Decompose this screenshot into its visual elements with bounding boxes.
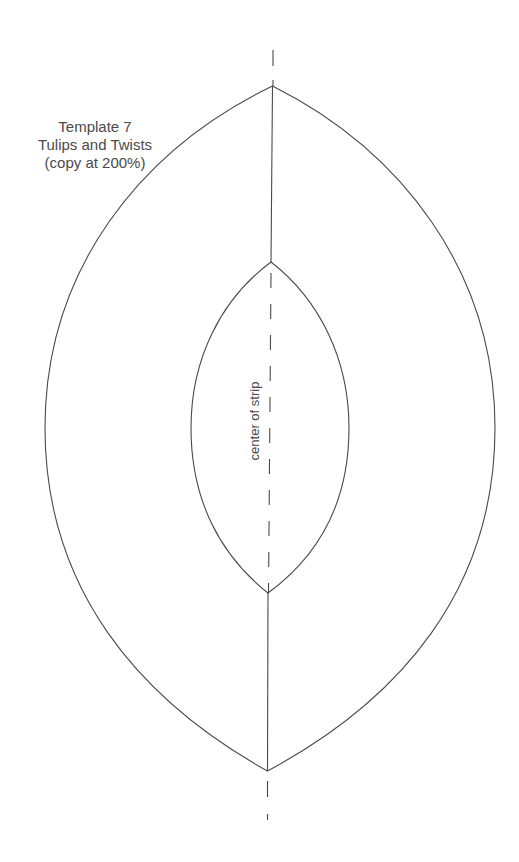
title-line-1: Template 7	[20, 118, 170, 136]
upper-center-line	[271, 86, 273, 262]
title-line-2: Tulips and Twists	[20, 136, 170, 154]
center-strip-dashed-line	[269, 273, 272, 593]
lower-center-line	[268, 593, 269, 771]
template-title: Template 7 Tulips and Twists (copy at 20…	[20, 118, 170, 172]
center-of-strip-label: center of strip	[247, 382, 262, 461]
title-line-3: (copy at 200%)	[20, 154, 170, 172]
inner-lens-outline	[191, 262, 349, 593]
